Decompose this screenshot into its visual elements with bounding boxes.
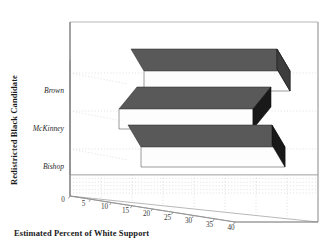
y-axis-title: Redistricted Black Candidate	[9, 75, 19, 185]
bar-brown-top-face	[131, 49, 290, 71]
bar-brown[interactable]	[131, 49, 290, 91]
bar-bishop-front-face	[141, 147, 285, 167]
bar-mckinney-top-face	[119, 87, 271, 109]
x-tick-label-30: 30	[185, 217, 193, 225]
x-tick-mark	[110, 203, 112, 206]
y-category-label-brown: Brown	[44, 86, 64, 95]
x-axis-title: Estimated Percent of White Support	[14, 228, 149, 238]
chart-figure: Brown McKinney Bishop 0 5 10 15 20 25 30…	[0, 0, 335, 248]
bar-bishop-top-face	[128, 125, 285, 147]
x-tick-label-20: 20	[143, 210, 151, 218]
x-tick-label-5: 5	[82, 200, 86, 208]
x-tick-label-35: 35	[206, 221, 214, 229]
x-tick-mark	[89, 199, 91, 202]
x-tick-mark	[130, 206, 132, 209]
x-tick-label-0: 0	[61, 196, 65, 204]
bar-mckinney[interactable]	[119, 87, 271, 129]
bar-bishop[interactable]	[128, 125, 285, 167]
x-tick-label-10: 10	[101, 203, 109, 211]
y-category-label-bishop: Bishop	[43, 162, 64, 171]
x-tick-label-25: 25	[164, 214, 172, 222]
x-tick-label-15: 15	[122, 207, 130, 215]
x-tick-mark	[69, 196, 71, 199]
bar-chart-3d: Brown McKinney Bishop 0 5 10 15 20 25 30…	[0, 0, 335, 248]
x-tick-label-40: 40	[227, 224, 235, 232]
y-category-label-mckinney: McKinney	[32, 124, 65, 133]
